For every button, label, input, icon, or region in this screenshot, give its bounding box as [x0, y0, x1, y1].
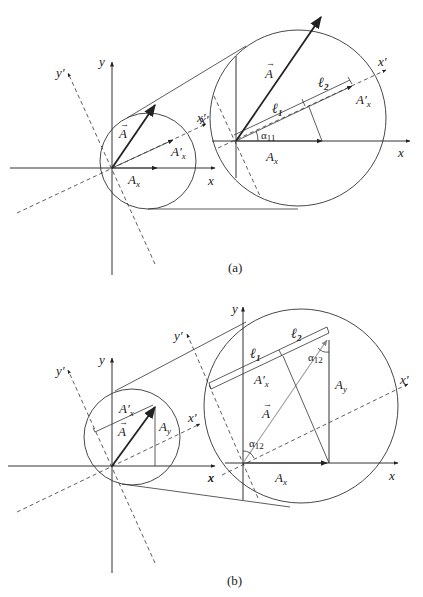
label-Ax-magnified: Ax — [265, 149, 278, 166]
label-y-prime: y′ — [54, 363, 65, 378]
label-l2: ℓ2 — [291, 326, 302, 343]
label-alpha: α11 — [261, 129, 275, 143]
vector-A-magnified — [236, 17, 321, 141]
label-Ax-magnified: Ax — [274, 470, 287, 487]
label-alpha-bottom: α12 — [249, 437, 264, 451]
label-y: y — [97, 352, 105, 367]
label-x-magnified: x — [388, 468, 395, 483]
caption-b: (b) — [227, 573, 242, 588]
bar-end-tick-right — [327, 327, 329, 333]
panel-b: y y′ x x′ A′x A → Ay — [8, 301, 409, 588]
zoom-circle-small — [84, 389, 180, 485]
label-x-prime-magnified: x′ — [377, 54, 387, 69]
label-y: y — [97, 54, 105, 69]
label-y-magnified: y — [230, 301, 238, 316]
label-x-left: x — [207, 470, 214, 485]
label-x-prime: x′ — [187, 410, 197, 425]
panel-b-small-view: y y′ x x′ A′x A → Ay — [8, 352, 215, 573]
label-y-prime-left: x′ — [199, 112, 209, 127]
label-l2: ℓ2 — [318, 75, 329, 92]
label-Ax-prime-magnified: A′x — [355, 92, 371, 109]
vector-arrow-glyph: → — [120, 119, 129, 129]
label-y-prime-magnified: y′ — [172, 328, 183, 343]
label-Ay: Ay — [158, 419, 171, 436]
panel-b-magnified-view: y y′ x x′ ℓ1 ℓ2 α12 A′x Ay A → α12 x Ax — [172, 301, 409, 503]
vector-Ax-prime-magnified — [236, 86, 352, 141]
length-bar-mid-tick — [279, 350, 282, 356]
label-Ay-magnified: Ay — [334, 377, 347, 394]
zoom-circle-small — [100, 113, 196, 209]
label-x-prime-magnified: x′ — [399, 372, 409, 387]
label-alpha-top: α12 — [308, 351, 323, 365]
label-l1: ℓ1 — [272, 101, 282, 118]
vector-arrow-glyph: → — [263, 399, 272, 409]
label-x: x — [207, 173, 214, 188]
vector-projection-diagram: y y′ x x′ A → A′x Ax — [0, 0, 423, 597]
x-prime-axis-magnified — [218, 70, 386, 148]
label-y-prime: y′ — [54, 65, 65, 80]
y-prime-axis-magnified — [187, 334, 258, 498]
connector-top — [127, 46, 246, 118]
label-Ax-prime: A′x — [118, 401, 134, 418]
panel-a-small-view: y y′ x x′ A → A′x Ax — [10, 54, 215, 275]
label-Ax: Ax — [127, 172, 140, 189]
panel-a-magnified-view: x′ x x′ A → ℓ1 ℓ2 A′x α11 Ax — [199, 17, 410, 206]
x-prime-axis — [17, 424, 200, 512]
label-l1: ℓ1 — [250, 346, 260, 363]
caption-a: (a) — [228, 260, 242, 275]
label-Ax-prime-magnified: A′x — [253, 372, 269, 389]
label-x-magnified: x — [397, 145, 404, 160]
vector-arrow-glyph: → — [266, 58, 275, 68]
panel-a: y y′ x x′ A → A′x Ax — [10, 17, 410, 275]
perpendicular-projection-line — [309, 107, 322, 141]
label-Ax-prime: A′x — [170, 144, 186, 161]
connector-bottom — [122, 484, 290, 507]
perpendicular-projection-line — [283, 356, 329, 463]
label-vector-A-magnified: A — [264, 66, 273, 81]
length-bar-l1-l2 — [234, 80, 350, 135]
vector-arrow-glyph: → — [119, 417, 128, 427]
angle-arc-alpha — [256, 131, 258, 141]
